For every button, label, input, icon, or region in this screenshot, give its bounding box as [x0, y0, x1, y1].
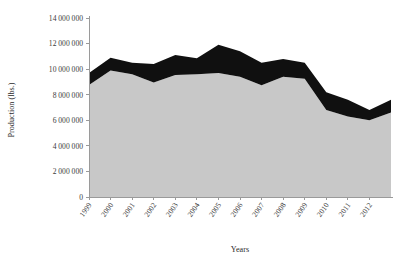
- area-series-lower: [89, 70, 391, 197]
- y-tick-label: 2 000 000: [53, 167, 84, 176]
- y-tick-label: 10 000 000: [49, 65, 83, 74]
- x-tick-label: 2000: [99, 201, 115, 219]
- y-tick-label: 14 000 000: [49, 14, 83, 23]
- y-axis-ticks: 02 000 0004 000 0006 000 0008 000 00010 …: [49, 14, 89, 202]
- plot-area: [89, 45, 391, 197]
- x-tick-label: 2009: [293, 201, 309, 219]
- y-axis-title: Production (lbs.): [7, 82, 16, 137]
- x-tick-label: 2006: [229, 201, 245, 219]
- y-tick-label: 12 000 000: [49, 39, 83, 48]
- x-tick-label: 1999: [78, 201, 94, 219]
- x-axis-ticks: 1999200020012002200320042005200620072008…: [78, 197, 375, 219]
- production-area-chart: 02 000 0004 000 0006 000 0008 000 00010 …: [0, 0, 418, 264]
- chart-canvas: 02 000 0004 000 0006 000 0008 000 00010 …: [0, 0, 418, 264]
- y-tick-label: 8 000 000: [53, 91, 84, 100]
- x-tick-label: 2007: [250, 201, 266, 219]
- x-axis-title: Years: [231, 245, 249, 254]
- x-tick-label: 2001: [121, 201, 137, 219]
- x-tick-label: 2003: [164, 201, 180, 219]
- x-tick-label: 2002: [142, 201, 158, 219]
- x-tick-label: 2004: [185, 201, 201, 219]
- y-tick-label: 0: [79, 193, 83, 202]
- x-tick-label: 2011: [337, 201, 353, 219]
- y-tick-label: 4 000 000: [53, 142, 84, 151]
- x-tick-label: 2008: [272, 201, 288, 219]
- x-tick-label: 2012: [358, 201, 374, 219]
- y-tick-label: 6 000 000: [53, 116, 84, 125]
- x-tick-label: 2005: [207, 201, 223, 219]
- x-tick-label: 2010: [315, 201, 331, 219]
